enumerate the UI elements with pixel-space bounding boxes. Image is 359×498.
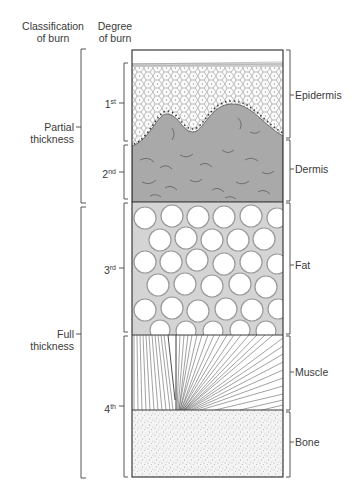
degree-brackets bbox=[119, 63, 128, 477]
bone-region bbox=[132, 410, 283, 477]
layer-brackets bbox=[286, 50, 294, 477]
skin-layers-diagram bbox=[0, 0, 359, 498]
layer-illustration bbox=[132, 50, 288, 477]
classification-brackets bbox=[76, 49, 86, 478]
